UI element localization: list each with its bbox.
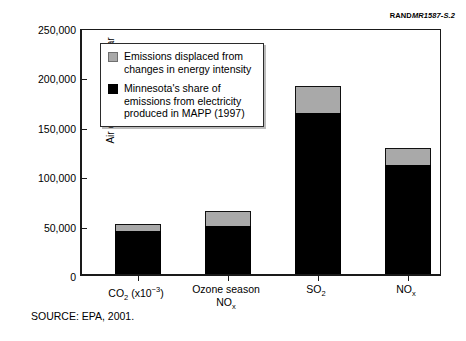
bar-group-so2 bbox=[295, 86, 341, 274]
x-tick-mark-nox bbox=[408, 274, 409, 281]
x-tick-mark-co2 bbox=[138, 274, 139, 281]
legend-label-share: Minnesota's share ofemissions from elect… bbox=[124, 82, 245, 120]
y-tick-mark-200000 bbox=[82, 79, 87, 80]
x-tick-mark-ozone-nox bbox=[228, 274, 229, 281]
x-tick-mark-so2 bbox=[318, 274, 319, 281]
legend-swatch-gray-icon bbox=[108, 52, 118, 62]
y-tick-label-50000: 50,000 bbox=[20, 222, 76, 234]
legend-label-displaced-line2: changes in energy intensity bbox=[124, 63, 251, 75]
x-axis-label-nox: NOx bbox=[396, 283, 416, 300]
y-tick-mark-150000 bbox=[82, 129, 87, 130]
bar-group-nox bbox=[385, 148, 431, 275]
rand-report-number: MR1587-S.2 bbox=[412, 11, 455, 20]
legend-label-displaced: Emissions displaced fromchanges in energ… bbox=[124, 50, 251, 75]
bar-nox-share bbox=[385, 165, 431, 274]
legend-swatch-black-icon bbox=[108, 84, 118, 94]
x-axis-label-ozone-nox: Ozone seasonNOx bbox=[192, 283, 260, 313]
bar-co2-share bbox=[115, 231, 161, 275]
legend-label-share-line1: Minnesota's share of bbox=[124, 82, 221, 94]
plot-area: Air emissions, tons/year 0 50,000 100,00… bbox=[80, 29, 441, 276]
x-axis-label-so2: SO2 bbox=[306, 283, 325, 300]
bar-group-ozone-nox bbox=[205, 211, 251, 274]
legend-label-share-line3: produced in MAPP (1997) bbox=[124, 107, 245, 119]
bar-so2-share bbox=[295, 113, 341, 274]
rand-brand-text: RAND bbox=[390, 11, 412, 20]
bar-ozone-nox-share bbox=[205, 226, 251, 274]
legend-label-displaced-line1: Emissions displaced from bbox=[124, 50, 243, 62]
legend-label-share-line2: emissions from electricity bbox=[124, 95, 241, 107]
chart-figure: RANDMR1587-S.2 Air emissions, tons/year … bbox=[0, 0, 466, 341]
y-tick-label-250000: 250,000 bbox=[20, 24, 76, 36]
y-tick-label-200000: 200,000 bbox=[20, 73, 76, 85]
chart-legend: Emissions displaced fromchanges in energ… bbox=[100, 43, 264, 127]
y-tick-label-0: 0 bbox=[20, 271, 76, 283]
legend-item-share: Minnesota's share ofemissions from elect… bbox=[108, 82, 256, 120]
y-tick-label-150000: 150,000 bbox=[20, 123, 76, 135]
x-axis-label-co2: CO2 (x10−3) bbox=[108, 283, 163, 304]
y-tick-label-100000: 100,000 bbox=[20, 172, 76, 184]
y-tick-mark-100000 bbox=[82, 178, 87, 179]
source-note: SOURCE: EPA, 2001. bbox=[31, 310, 134, 322]
rand-report-id: RANDMR1587-S.2 bbox=[390, 11, 455, 20]
legend-item-displaced: Emissions displaced fromchanges in energ… bbox=[108, 50, 256, 75]
bar-group-co2 bbox=[115, 224, 161, 274]
y-tick-mark-50000 bbox=[82, 228, 87, 229]
